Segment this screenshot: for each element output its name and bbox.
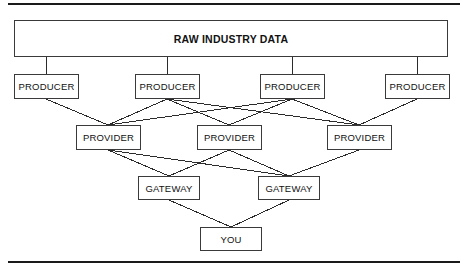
- producer-box-2: PRODUCER: [135, 74, 200, 99]
- you-label: YOU: [220, 234, 241, 245]
- producer-label-2: PRODUCER: [140, 81, 196, 92]
- you-box: YOU: [200, 227, 262, 251]
- raw-industry-data-label: RAW INDUSTRY DATA: [174, 33, 288, 45]
- producer-box-4: PRODUCER: [385, 74, 450, 99]
- producer-label-3: PRODUCER: [265, 81, 321, 92]
- gateway-label-2: GATEWAY: [265, 183, 312, 194]
- provider-label-2: PROVIDER: [204, 132, 255, 143]
- edge-gateway1-to-you: [169, 200, 231, 227]
- edge-provider2-to-gateway1: [169, 150, 229, 176]
- edge-producer1-to-provider1: [46, 99, 108, 125]
- producer-box-3: PRODUCER: [260, 74, 325, 99]
- raw-industry-data-box: RAW INDUSTRY DATA: [14, 20, 448, 57]
- gateway-box-1: GATEWAY: [138, 176, 200, 200]
- provider-label-3: PROVIDER: [334, 132, 385, 143]
- provider-box-3: PROVIDER: [327, 125, 392, 150]
- diagram-canvas: RAW INDUSTRY DATA PRODUCER PRODUCER PROD…: [0, 0, 468, 277]
- edge-producer4-to-provider3: [359, 99, 417, 125]
- edge-gateway2-to-you: [231, 200, 289, 227]
- edge-producer3-to-provider2: [229, 99, 292, 125]
- provider-box-2: PROVIDER: [197, 125, 262, 150]
- provider-box-1: PROVIDER: [76, 125, 141, 150]
- gateway-box-2: GATEWAY: [258, 176, 320, 200]
- gateway-label-1: GATEWAY: [145, 183, 192, 194]
- edge-provider3-to-gateway2: [289, 150, 359, 176]
- provider-label-1: PROVIDER: [83, 132, 134, 143]
- producer-label-4: PRODUCER: [390, 81, 446, 92]
- producer-label-1: PRODUCER: [19, 81, 75, 92]
- producer-box-1: PRODUCER: [14, 74, 79, 99]
- bottom-divider-rule: [8, 261, 460, 263]
- edge-producer3-to-provider3: [292, 99, 359, 125]
